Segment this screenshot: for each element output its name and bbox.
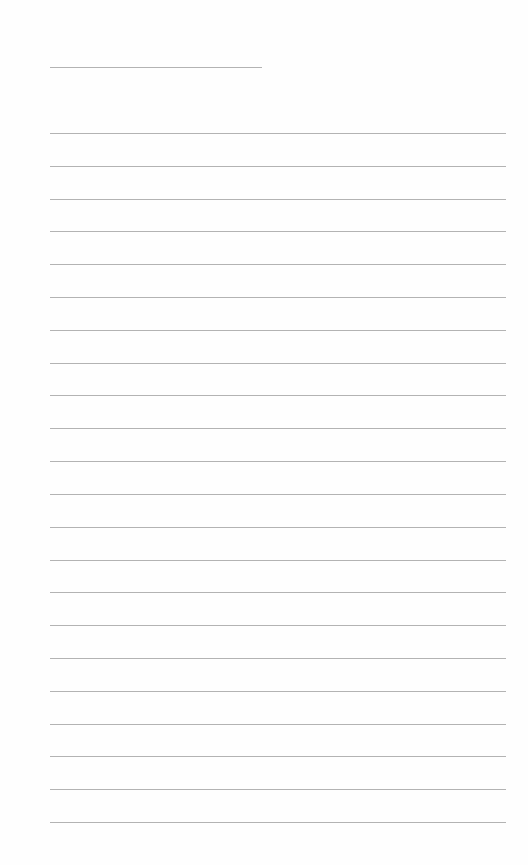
ruled-line — [50, 133, 506, 134]
ruled-line — [50, 560, 506, 561]
ruled-line — [50, 231, 506, 232]
ruled-line — [50, 658, 506, 659]
ruled-line — [50, 330, 506, 331]
ruled-line — [50, 363, 506, 364]
ruled-line — [50, 428, 506, 429]
ruled-line — [50, 199, 506, 200]
ruled-line — [50, 691, 506, 692]
ruled-line — [50, 527, 506, 528]
ruled-line — [50, 395, 506, 396]
ruled-line — [50, 166, 506, 167]
header-title-line — [50, 67, 262, 68]
ruled-line — [50, 789, 506, 790]
ruled-line — [50, 592, 506, 593]
ruled-line — [50, 724, 506, 725]
ruled-paper-page — [0, 0, 528, 865]
ruled-line — [50, 461, 506, 462]
ruled-line — [50, 625, 506, 626]
ruled-line — [50, 822, 506, 823]
ruled-line — [50, 756, 506, 757]
ruled-line — [50, 297, 506, 298]
ruled-line — [50, 494, 506, 495]
ruled-line — [50, 264, 506, 265]
